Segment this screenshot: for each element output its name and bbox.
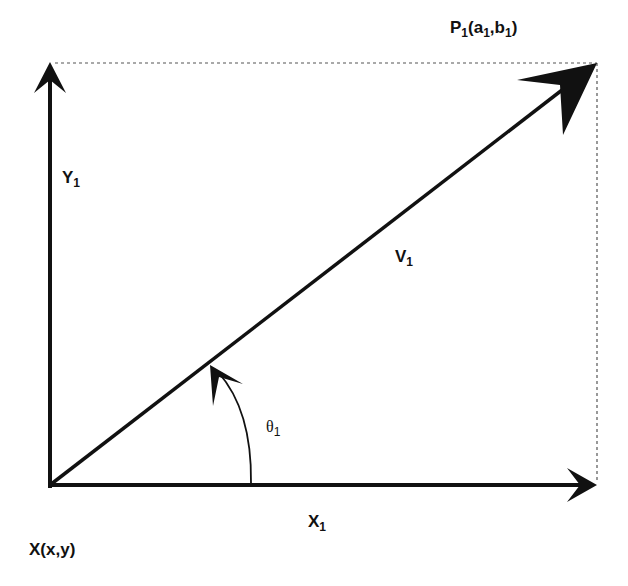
origin-label: X(x,y) [29, 540, 75, 560]
angle-arc-arrow [210, 365, 251, 483]
x-axis-arrow [48, 468, 597, 502]
y-axis-arrow [34, 62, 66, 488]
diagram-canvas [0, 0, 628, 586]
y-axis-label: Y1 [62, 168, 80, 190]
point-label: P1(a1,b1) [450, 18, 517, 40]
vector-arrow [50, 63, 597, 485]
vector-label: V1 [395, 247, 413, 269]
x-axis-label: X1 [308, 512, 326, 534]
angle-label: θ1 [266, 418, 280, 439]
